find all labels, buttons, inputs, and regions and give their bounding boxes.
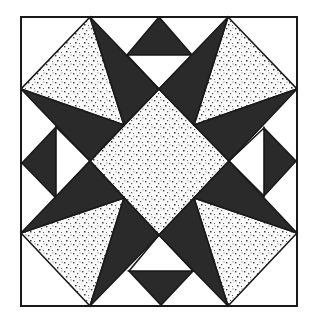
quilt-pieces	[21, 17, 297, 306]
quilt-block-diagram	[0, 0, 317, 323]
